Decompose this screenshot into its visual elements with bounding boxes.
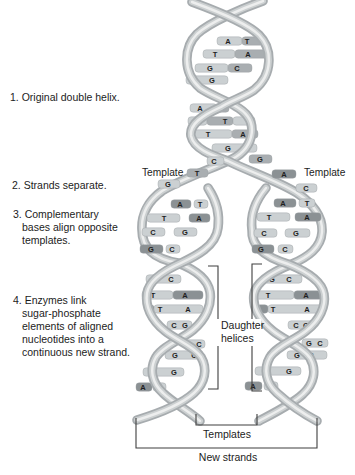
nucleotide-bar: [173, 291, 203, 299]
base-letter: G: [293, 229, 299, 238]
base-pair-rung: CG: [142, 228, 197, 237]
base-pair-rung: TA: [252, 291, 323, 300]
base-letter: C: [261, 229, 267, 238]
base-letter: G: [182, 228, 188, 237]
base-letter: T: [266, 291, 271, 300]
base-letter: A: [177, 200, 183, 209]
base-pair-rung: C: [207, 157, 224, 166]
base-letter: A: [303, 291, 309, 300]
base-letter: C: [171, 321, 177, 330]
base-letter: A: [250, 382, 256, 391]
base-letter: G: [306, 339, 312, 348]
base-letter: C: [303, 184, 309, 193]
base-letter: T: [267, 213, 272, 222]
base-letter: G: [258, 245, 264, 254]
base-pair-rung: A: [272, 170, 296, 179]
base-letter: G: [148, 245, 154, 254]
base-letter: G: [165, 180, 171, 189]
base-letter: A: [304, 213, 310, 222]
new-strands-label: New strands: [199, 451, 257, 463]
base-pair-rung: TA: [257, 213, 321, 222]
base-pair-rung: G: [249, 155, 272, 164]
daughter-helices-label-line1: Daughter: [221, 319, 265, 331]
base-letter: A: [304, 305, 310, 314]
base-letter: C: [293, 321, 299, 330]
nucleotide-bar: [228, 64, 252, 72]
base-pair-rung: TA: [147, 214, 210, 223]
daughter-helices-label-line2: helices: [221, 332, 254, 344]
base-pair-rung: GC: [302, 339, 328, 348]
base-letter: C: [317, 339, 323, 348]
nucleotide-bar: [203, 50, 235, 58]
base-letter: A: [196, 214, 202, 223]
step-4-label: 4. Enzymes linksugar-phosphateelements o…: [13, 294, 130, 358]
base-letter: G: [207, 64, 213, 73]
base-letter: A: [182, 291, 188, 300]
base-letter: C: [169, 245, 175, 254]
base-letter: T: [195, 169, 200, 178]
base-letter: A: [140, 383, 146, 392]
base-pair-rung: T: [187, 169, 208, 178]
base-letter: C: [282, 245, 288, 254]
base-letter: G: [171, 368, 177, 377]
base-letter: G: [209, 76, 215, 85]
base-letter: T: [305, 199, 310, 208]
base-pair-rung: G: [158, 180, 180, 189]
nucleotide-bar: [207, 117, 233, 125]
step-3-label: 3. Complementarybases align oppositetemp…: [13, 208, 118, 246]
base-letter: C: [286, 275, 292, 284]
base-pair-rung: TA: [203, 50, 268, 59]
base-letter: T: [158, 305, 163, 314]
templates-label: Templates: [203, 428, 251, 440]
base-letter: A: [281, 170, 287, 179]
base-letter: A: [225, 37, 231, 46]
base-letter: T: [206, 130, 211, 139]
base-letter: T: [213, 50, 218, 59]
templates-bracket: [196, 414, 257, 425]
base-letter: T: [271, 305, 276, 314]
step-2-label: 2. Strands separate.: [12, 179, 107, 191]
step-1-label: 1. Original double helix.: [10, 91, 120, 103]
base-letter: G: [257, 155, 263, 164]
base-letter: C: [234, 64, 240, 73]
template-label-left: Template: [142, 167, 184, 178]
dna-replication-figure: ATTAGCCGATATTAGCGCTATACGGCGCCGATGCTATACG…: [0, 0, 355, 475]
base-pair-rung: GC: [252, 245, 293, 254]
base-letter: T: [198, 200, 203, 209]
template-label-right: Template: [304, 167, 346, 178]
base-letter: C: [150, 228, 156, 237]
base-letter: G: [172, 351, 178, 360]
base-letter: A: [280, 199, 286, 208]
base-letter: G: [225, 144, 231, 153]
base-letter: G: [286, 367, 292, 376]
base-letter: T: [223, 117, 228, 126]
base-pair-rung: CG: [254, 229, 310, 238]
base-letter: T: [245, 37, 250, 46]
base-letter: A: [240, 130, 246, 139]
base-pair-rung: AT: [274, 199, 315, 208]
base-letter: C: [168, 275, 174, 284]
base-pair-rung: GC: [195, 64, 252, 73]
base-letter: C: [211, 157, 217, 166]
base-pair-rung: GC: [140, 245, 180, 254]
nucleotide-bar: [257, 213, 290, 221]
base-letter: A: [245, 50, 251, 59]
base-pair-rung: AT: [171, 200, 208, 209]
nucleotide-bar: [192, 130, 232, 138]
base-pair-rung: C: [296, 184, 317, 193]
base-letter: T: [162, 214, 167, 223]
base-letter: A: [185, 305, 191, 314]
base-pair-rung: TA: [257, 305, 325, 314]
